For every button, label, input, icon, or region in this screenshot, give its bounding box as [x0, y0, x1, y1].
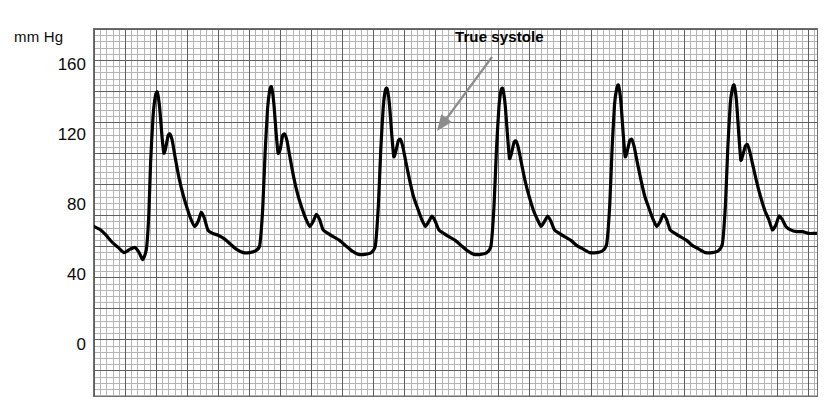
y-axis-tick-0: 0 [12, 336, 86, 353]
plot-area [93, 28, 818, 397]
pressure-waveform-trace [94, 29, 817, 397]
y-axis-tick-80: 80 [12, 196, 86, 213]
y-axis-tick-160: 160 [12, 56, 86, 73]
y-axis-tick-40: 40 [12, 266, 86, 283]
annotation-true-systole-label: True systole [455, 28, 544, 45]
y-axis-tick-120: 120 [12, 126, 86, 143]
chart-figure: mm Hg 16012080400 True systole [0, 0, 828, 408]
y-axis-tick-labels: 16012080400 [0, 0, 86, 408]
waveform-path [94, 85, 817, 260]
